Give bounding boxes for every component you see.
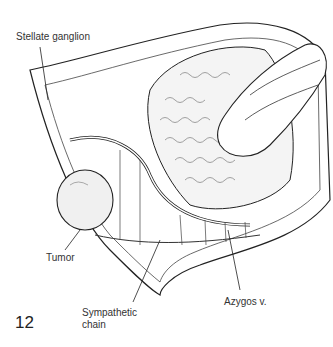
figure-number: 12 — [15, 313, 34, 333]
sympathetic-chain-label-line2: chain — [82, 319, 106, 330]
tumor-label: Tumor — [46, 252, 75, 263]
sympathetic-chain-label-line1: Sympathetic — [82, 307, 137, 318]
azygos-label: Azygos v. — [224, 296, 267, 307]
surgical-illustration — [0, 0, 333, 347]
stellate-ganglion-label: Stellate ganglion — [16, 31, 90, 42]
